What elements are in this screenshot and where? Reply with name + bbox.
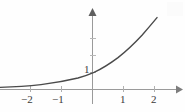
exponential-graph-figure: −2 −1 1 2 1 (0, 0, 185, 112)
x-tick-label--1: −1 (52, 94, 64, 105)
x-tick-label-2: 2 (151, 94, 157, 105)
x-axis-arrow-icon (176, 86, 183, 94)
y-tick-label-1: 1 (84, 64, 90, 75)
y-axis-arrow-icon (89, 8, 97, 16)
x-tick-label--2: −2 (21, 94, 33, 105)
exponential-curve (0, 18, 157, 88)
x-tick-label-1: 1 (120, 94, 126, 105)
